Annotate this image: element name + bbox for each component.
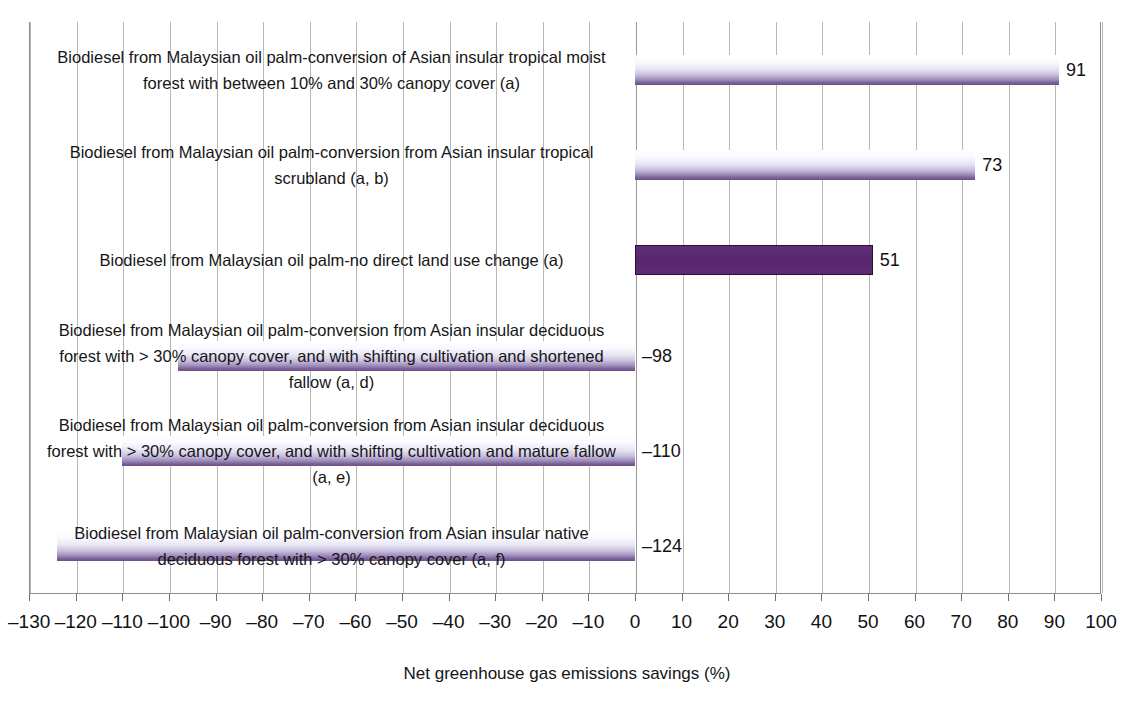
- bar-row: Biodiesel from Malaysian oil palm-conver…: [0, 22, 1134, 117]
- x-axis-tick: [169, 594, 170, 601]
- x-axis-tick-label: –70: [293, 612, 325, 631]
- bar-row: Biodiesel from Malaysian oil palm-conver…: [0, 308, 1134, 403]
- x-axis-tick: [1008, 594, 1009, 601]
- category-label-text: Biodiesel from Malaysian oil palm-no dir…: [99, 247, 563, 273]
- bar: [635, 55, 1059, 85]
- x-axis-tick: [542, 594, 543, 601]
- x-axis-tick: [76, 594, 77, 601]
- bar-row: Biodiesel from Malaysian oil palm-no dir…: [0, 213, 1134, 308]
- x-axis-tick: [402, 594, 403, 601]
- x-axis-tick: [728, 594, 729, 601]
- x-axis-tick-label: 70: [951, 612, 972, 631]
- x-axis-tick: [682, 594, 683, 601]
- x-axis-tick-label: –110: [102, 612, 143, 631]
- x-axis-tick: [262, 594, 263, 601]
- x-axis-tick: [495, 594, 496, 601]
- bar-value-label: –110: [642, 442, 681, 460]
- bar-chart: Biodiesel from Malaysian oil palm-conver…: [0, 0, 1134, 712]
- x-axis-tick-label: 30: [764, 612, 785, 631]
- x-axis-tick-label: –10: [573, 612, 605, 631]
- x-axis-tick-label: 10: [671, 612, 692, 631]
- bar-row: Biodiesel from Malaysian oil palm-conver…: [0, 499, 1134, 594]
- bar-value-label: –98: [642, 347, 672, 365]
- x-axis-tick-label: 40: [811, 612, 832, 631]
- x-axis-tick: [1101, 594, 1102, 601]
- x-axis-tick: [961, 594, 962, 601]
- x-axis-tick: [588, 594, 589, 601]
- x-axis-tick-label: –130: [8, 612, 50, 631]
- x-axis-tick-label: –100: [148, 612, 190, 631]
- x-axis-tick-label: 20: [718, 612, 739, 631]
- x-axis-tick-label: –60: [340, 612, 372, 631]
- x-axis-tick-label: 60: [904, 612, 925, 631]
- x-axis-title: Net greenhouse gas emissions savings (%): [0, 664, 1134, 684]
- bar: [178, 341, 635, 371]
- bar-value-label: 51: [880, 251, 900, 269]
- x-axis-tick: [868, 594, 869, 601]
- bar: [57, 531, 635, 561]
- x-axis-tick-label: –40: [433, 612, 465, 631]
- x-axis-tick-label: 90: [1044, 612, 1065, 631]
- x-axis-tick: [775, 594, 776, 601]
- x-axis-tick-label: 100: [1085, 612, 1117, 631]
- x-axis-tick-label: 50: [857, 612, 878, 631]
- x-axis-tick: [29, 594, 30, 601]
- bar: [635, 150, 975, 180]
- category-label: Biodiesel from Malaysian oil palm-no dir…: [32, 213, 631, 308]
- category-label: Biodiesel from Malaysian oil palm-conver…: [32, 22, 631, 117]
- x-axis-tick-label: –90: [200, 612, 232, 631]
- bar-row: Biodiesel from Malaysian oil palm-conver…: [0, 403, 1134, 498]
- bar-value-label: 91: [1066, 61, 1086, 79]
- category-label-text: Biodiesel from Malaysian oil palm-conver…: [38, 139, 625, 191]
- x-axis-tick-label: –20: [526, 612, 558, 631]
- bar: [122, 436, 635, 466]
- bar-value-label: 73: [982, 156, 1002, 174]
- x-axis-tick: [635, 594, 636, 601]
- x-axis-tick-label: 80: [997, 612, 1018, 631]
- bar-row: Biodiesel from Malaysian oil palm-conver…: [0, 117, 1134, 212]
- x-axis-tick-label: –30: [479, 612, 511, 631]
- x-axis-tick: [1054, 594, 1055, 601]
- category-label: Biodiesel from Malaysian oil palm-conver…: [32, 117, 631, 212]
- x-axis-tick: [216, 594, 217, 601]
- x-axis-tick: [449, 594, 450, 601]
- x-axis-tick: [821, 594, 822, 601]
- category-label-text: Biodiesel from Malaysian oil palm-conver…: [38, 44, 625, 96]
- bar-value-label: –124: [642, 537, 682, 555]
- x-axis-tick: [355, 594, 356, 601]
- x-axis-tick-label: –120: [55, 612, 97, 631]
- x-axis-tick-label: 0: [630, 612, 641, 631]
- x-axis-tick: [915, 594, 916, 601]
- x-axis-tick-label: –80: [246, 612, 278, 631]
- x-axis-tick: [122, 594, 123, 601]
- bar: [635, 245, 873, 275]
- x-axis-tick: [309, 594, 310, 601]
- x-axis-tick-label: –50: [386, 612, 418, 631]
